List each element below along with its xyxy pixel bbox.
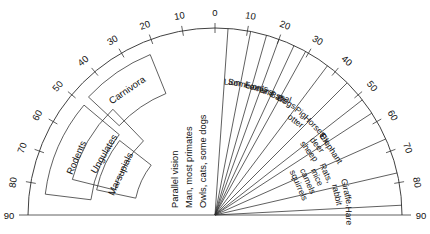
axis-tick-label: 70: [401, 141, 415, 155]
axis-tick-label: 30: [310, 33, 325, 48]
ray-label: Dogs: [275, 93, 297, 111]
axis-tick: [332, 68, 338, 76]
ray-line: [215, 35, 267, 215]
center-note-line: Owls, cats, some dogs: [198, 114, 208, 208]
axis-tick: [92, 68, 98, 76]
ray-line: [215, 39, 279, 215]
axis-tick-label: 10: [173, 9, 185, 22]
axis-tick: [354, 92, 362, 98]
axis-tick-label: 30: [105, 33, 120, 48]
ray-label: Hare: [343, 206, 354, 225]
group-bracket-end: [150, 55, 166, 94]
group-label: Marsupials: [106, 150, 136, 197]
polar-diagram-svg: 9080706050403020100102030405060708090Lio…: [0, 0, 430, 234]
ray-line: [215, 28, 228, 215]
axis-tick-label: 80: [411, 176, 424, 188]
group-bracket-inner: [119, 94, 166, 126]
axis-tick-label: 60: [386, 108, 401, 123]
center-note-line: Parallel vision: [170, 151, 180, 208]
axis-tick-label: 20: [278, 18, 292, 32]
axis-tick: [68, 92, 76, 98]
ray-label: Giraffe,rabbit: [329, 178, 355, 210]
axis-tick-label: 0: [212, 7, 217, 18]
group-bracket-end: [113, 109, 144, 141]
axis-tick: [306, 49, 311, 58]
axis-tick-label: 50: [50, 78, 65, 93]
axis-tick-label: 40: [75, 53, 90, 68]
axis-tick-label: 50: [365, 78, 380, 93]
center-note-line: Man, most primates: [184, 126, 194, 208]
axis-tick-label: 40: [340, 53, 355, 68]
axis-tick-label: 90: [4, 210, 15, 221]
group-bracket-inner: [136, 165, 151, 198]
axis-tick-label: 70: [15, 141, 29, 155]
group-label: Rodents: [64, 139, 88, 176]
axis-tick-label: 90: [416, 210, 427, 221]
axis-tick: [49, 119, 58, 124]
ray-line: [215, 31, 251, 215]
axis-tick-label: 60: [30, 108, 45, 123]
ray-line: [215, 205, 402, 215]
axis-tick-label: 10: [245, 9, 257, 22]
diagram-canvas: 9080706050403020100102030405060708090Lio…: [0, 0, 430, 234]
group-bracket-end: [45, 194, 91, 200]
axis-tick-label: 20: [138, 18, 152, 32]
axis-tick-label: 80: [6, 176, 19, 188]
group-label: Carnivora: [107, 73, 148, 106]
axis-tick: [373, 119, 382, 124]
group-label: Ungulates: [88, 132, 119, 175]
axis-tick: [119, 49, 124, 58]
